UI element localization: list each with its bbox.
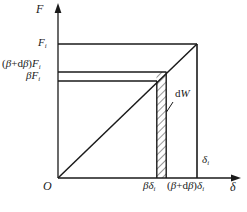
dw-hatched-region bbox=[157, 72, 167, 178]
y-axis bbox=[55, 3, 62, 178]
label-beta-Fi: βFi bbox=[26, 70, 40, 81]
label-beta-dbeta-delta-i: (β+dβ)δi bbox=[167, 180, 204, 191]
label-Fi-main: F bbox=[38, 36, 45, 48]
delta-symbol: δ bbox=[148, 179, 153, 191]
F-symbol: F bbox=[32, 57, 39, 69]
label-Fi: Fi bbox=[38, 37, 47, 48]
delta-subscript: i bbox=[207, 159, 209, 166]
label-beta-dbeta-Fi: (β+dβ)Fi bbox=[2, 58, 41, 69]
y-axis-label: F bbox=[36, 3, 43, 15]
label-Fi-subscript: i bbox=[45, 42, 47, 49]
delta-subscript: i bbox=[154, 185, 156, 192]
force-displacement-diagram: F δ O Fi (β+dβ)Fi βFi βδi (β+dβ)δi δi dW bbox=[0, 0, 247, 212]
x-axis-label: δ bbox=[230, 181, 236, 193]
label-dW: dW bbox=[175, 88, 190, 99]
dw-leader-line bbox=[167, 102, 174, 112]
label-beta-delta-i: βδi bbox=[143, 180, 156, 191]
diagram-canvas bbox=[0, 0, 247, 212]
y-axis-arrowhead bbox=[55, 3, 62, 13]
label-delta-i: δi bbox=[202, 154, 209, 165]
load-deflection-line bbox=[58, 44, 197, 178]
delta-subscript: i bbox=[202, 185, 204, 192]
F-subscript: i bbox=[38, 75, 40, 82]
W-symbol: W bbox=[181, 87, 190, 99]
origin-label: O bbox=[43, 180, 52, 192]
